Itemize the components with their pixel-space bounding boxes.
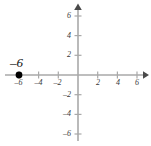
x-axis (5, 71, 149, 79)
graph-canvas (0, 0, 151, 146)
x-tick-label-neg4: –4 (33, 79, 44, 87)
y-tick-label-4: 4 (65, 32, 73, 40)
y-tick-label-6: 6 (65, 12, 73, 20)
x-tick-label-4: 4 (114, 79, 122, 87)
x-tick-label-neg2: –2 (52, 79, 63, 87)
y-axis (74, 4, 82, 142)
y-tick-label-neg4: –4 (61, 110, 73, 118)
x-tick-label-neg6: –6 (13, 79, 24, 87)
coordinate-plane-figure: –6 –4 –2 2 4 6 6 4 2 –2 –4 –6 –6 (0, 0, 151, 146)
y-tick-label-neg6: –6 (61, 130, 73, 138)
point-value-label: –6 (10, 56, 23, 69)
x-tick-label-2: 2 (94, 79, 102, 87)
y-tick-label-2: 2 (65, 51, 73, 59)
x-tick-label-6: 6 (133, 79, 141, 87)
x-axis-arrowhead (143, 71, 149, 79)
y-tick-label-neg2: –2 (61, 91, 73, 99)
y-axis-arrowhead (74, 4, 82, 11)
